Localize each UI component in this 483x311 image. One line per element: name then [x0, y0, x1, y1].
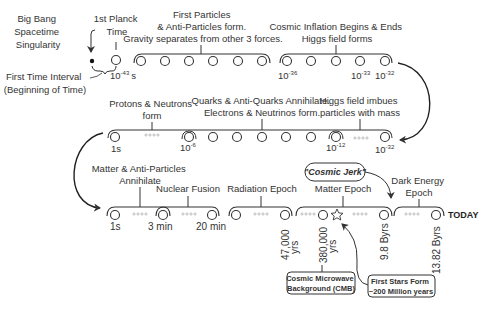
inflation-nodes — [283, 57, 390, 66]
row-3: Matter & Anti-Particles Annihilate Nucle… — [92, 163, 479, 297]
singularity-arrow — [91, 30, 95, 52]
timeline-node — [319, 211, 328, 220]
universe-timeline-diagram: Big Bang Spacetime Singularity 1st Planc… — [0, 0, 483, 311]
timeline-node — [332, 133, 341, 142]
tick-1s: 1s — [111, 143, 121, 154]
timeline-node — [161, 57, 170, 66]
timeline-node — [380, 211, 389, 220]
tick-10e-32: 10-32 — [375, 144, 395, 155]
timeline-node — [283, 57, 292, 66]
radiation-label: Radiation Epoch — [227, 183, 297, 194]
timeline-node — [281, 211, 290, 220]
planck-node — [112, 56, 121, 65]
matter-bracket — [296, 207, 392, 216]
timeline-node — [307, 133, 316, 142]
ellipsis-dots — [145, 134, 368, 139]
timeline-node — [111, 211, 120, 220]
tick-380000-yrs: 380,000 yrs — [318, 224, 338, 263]
tick-10e-32: 10-32 — [375, 70, 395, 81]
cosmic-jerk-label: "Cosmic Jerk" — [304, 167, 367, 177]
first-particles-nodes — [137, 57, 267, 66]
tick-3-min: 3 min — [148, 221, 172, 232]
timeline-node — [232, 211, 241, 220]
row2-nodes — [111, 133, 390, 142]
matter-label: Matter Epoch — [315, 183, 372, 194]
timeline-node — [209, 133, 218, 142]
fusion-label: Nuclear Fusion — [156, 183, 220, 194]
timeline-node — [332, 57, 341, 66]
singularity-dot — [90, 59, 94, 63]
timeline-node — [209, 57, 218, 66]
first-stars-label: First Stars Form ~200 Million years — [369, 277, 433, 296]
timeline-node — [233, 133, 242, 142]
tick-10e-12: 10-12 — [326, 142, 346, 153]
row-1: Big Bang Spacetime Singularity 1st Planc… — [4, 9, 405, 95]
planck-time-tick: 10-43s — [110, 70, 136, 81]
timeline-node — [185, 57, 194, 66]
inflation-bracket — [280, 54, 392, 63]
first-stars-star-icon — [331, 209, 343, 220]
tick-10e-33: 10-33 — [351, 70, 371, 81]
first-interval-pointer — [90, 73, 102, 78]
first-particles-bracket — [134, 54, 270, 63]
timeline-node — [432, 211, 441, 220]
ellipsis-dots — [133, 213, 419, 215]
inflation-label: Cosmic Inflation Begins & Ends Higgs fie… — [269, 21, 404, 44]
timeline-node — [111, 133, 120, 142]
first-interval-label: First Time Interval (Beginning of Time) — [4, 71, 86, 95]
tick-1s-row3: 1s — [110, 221, 121, 232]
timeline-node — [356, 57, 365, 66]
first-particles-label: First Particles & Anti-Particles form. G… — [123, 9, 282, 44]
tick-9-8-byrs: 9.8 Byrs — [379, 223, 390, 260]
timeline-node — [159, 211, 168, 220]
quarks-label: Quarks & Anti-Quarks Annihilate. Electro… — [192, 95, 333, 118]
timeline-node — [137, 57, 146, 66]
higgs-label: Higgs field imbues particles with mass — [320, 95, 401, 118]
timeline-node — [381, 133, 390, 142]
timeline-node — [208, 211, 217, 220]
row-2: Protons & Neutrons form Quarks & Anti-Qu… — [108, 95, 400, 155]
timeline-node — [258, 57, 267, 66]
timeline-node — [381, 57, 390, 66]
tick-10e-36: 10-36 — [278, 70, 298, 81]
singularity-label: Big Bang Spacetime Singularity — [14, 13, 62, 50]
timeline-node — [258, 133, 267, 142]
connector-arrow-right — [398, 63, 430, 140]
tick-10e-6: 10-6 — [180, 142, 197, 153]
timeline-node — [234, 57, 243, 66]
timeline-node — [307, 57, 316, 66]
cmb-label: Cosmic Microwave Background (CMB) — [286, 274, 356, 293]
dark-energy-label: Dark Energy Epoch — [391, 175, 446, 198]
timeline-node — [185, 133, 194, 142]
tick-47000-yrs: 47,000 yrs — [280, 227, 300, 260]
today-label: TODAY — [448, 210, 479, 220]
tick-13-82-byrs: 13.82 Byrs — [431, 226, 442, 274]
tick-20-min: 20 min — [196, 221, 226, 232]
timeline-node — [282, 133, 291, 142]
protons-label: Protons & Neutrons form — [109, 98, 195, 121]
